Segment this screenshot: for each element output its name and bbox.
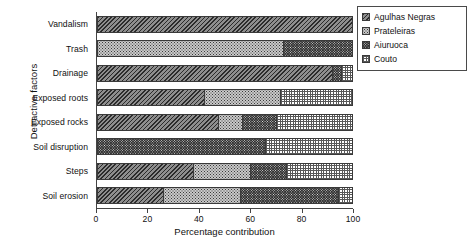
bar-segment-aiuruoca xyxy=(242,115,276,130)
x-tick-60 xyxy=(250,209,251,213)
x-tick-label-100: 100 xyxy=(346,214,360,224)
x-tick-label-40: 40 xyxy=(194,214,204,224)
bar-segment-agulhas-negras xyxy=(98,66,332,81)
category-label-exposed-rocks: Exposed rocks xyxy=(18,110,92,135)
stacked-bar xyxy=(97,65,353,82)
bar-row-vandalism xyxy=(97,12,353,37)
bar-row-soil-disruption xyxy=(97,135,353,160)
legend-item-agulhas-negras: Agulhas Negras xyxy=(362,10,463,24)
plot-area xyxy=(96,12,353,209)
bar-segment-agulhas-negras xyxy=(98,115,218,130)
bar-segment-agulhas-negras xyxy=(98,90,204,105)
x-tick-label-20: 20 xyxy=(143,214,153,224)
legend-item-couto: Couto xyxy=(362,52,463,66)
x-tick-40 xyxy=(199,209,200,213)
bar-row-steps xyxy=(97,159,353,184)
legend-label: Prateleiras xyxy=(374,26,415,36)
bar-segment-agulhas-negras xyxy=(98,17,352,32)
x-tick-0 xyxy=(96,209,97,213)
stacked-bar xyxy=(97,89,353,106)
legend: Agulhas NegrasPrateleirasAiuruocaCouto xyxy=(357,6,467,71)
category-label-steps: Steps xyxy=(18,159,92,184)
legend-label: Couto xyxy=(374,54,397,64)
legend-swatch-agulhas-negras xyxy=(362,13,370,21)
stacked-bar xyxy=(97,40,353,57)
x-tick-label-80: 80 xyxy=(297,214,307,224)
category-label-column: VandalismTrashDrainageExposed rootsExpos… xyxy=(18,12,92,208)
category-label-vandalism: Vandalism xyxy=(18,12,92,37)
bar-segment-aiuruoca xyxy=(283,41,352,56)
legend-item-aiuruoca: Aiuruoca xyxy=(362,38,463,52)
x-tick-80 xyxy=(302,209,303,213)
bar-row-exposed-rocks xyxy=(97,110,353,135)
bar-segment-agulhas-negras xyxy=(98,164,193,179)
bar-segment-couto xyxy=(341,66,352,81)
bar-segment-couto xyxy=(265,139,352,154)
bar-segment-prateleiras xyxy=(204,90,281,105)
stacked-bar xyxy=(97,114,353,131)
bar-segment-couto xyxy=(276,115,352,130)
stacked-bar xyxy=(97,138,353,155)
bar-segment-prateleiras xyxy=(98,41,283,56)
category-label-trash: Trash xyxy=(18,37,92,62)
stacked-bar xyxy=(97,163,353,180)
bar-segment-aiuruoca xyxy=(98,139,265,154)
bar-segment-couto xyxy=(286,164,352,179)
chart-figure: Detractive factors VandalismTrashDrainag… xyxy=(0,0,472,251)
x-tick-label-60: 60 xyxy=(245,214,255,224)
category-label-exposed-roots: Exposed roots xyxy=(18,86,92,111)
legend-swatch-aiuruoca xyxy=(362,41,370,49)
category-label-soil-disruption: Soil disruption xyxy=(18,135,92,160)
x-tick-label-0: 0 xyxy=(94,214,99,224)
x-axis-title: Percentage contribution xyxy=(96,226,353,237)
category-label-drainage: Drainage xyxy=(18,61,92,86)
stacked-bar xyxy=(97,16,353,33)
x-tick-20 xyxy=(147,209,148,213)
legend-item-prateleiras: Prateleiras xyxy=(362,24,463,38)
bar-row-soil-erosion xyxy=(97,184,353,209)
bar-segment-prateleiras xyxy=(193,164,249,179)
bar-segment-aiuruoca xyxy=(240,188,339,203)
stacked-bar xyxy=(97,187,353,204)
category-label-soil-erosion: Soil erosion xyxy=(18,184,92,209)
x-tick-100 xyxy=(353,209,354,213)
bar-group xyxy=(97,12,353,208)
bar-segment-couto xyxy=(338,188,352,203)
legend-swatch-prateleiras xyxy=(362,27,370,35)
bar-segment-agulhas-negras xyxy=(98,188,163,203)
bar-row-trash xyxy=(97,37,353,62)
bar-row-exposed-roots xyxy=(97,86,353,111)
legend-label: Aiuruoca xyxy=(374,40,408,50)
bar-segment-aiuruoca xyxy=(250,164,286,179)
bar-segment-prateleiras xyxy=(163,188,239,203)
bar-row-drainage xyxy=(97,61,353,86)
legend-label: Agulhas Negras xyxy=(374,12,435,22)
x-axis-tick-labels: 020406080100 xyxy=(96,214,353,226)
bar-segment-prateleiras xyxy=(218,115,242,130)
bar-segment-couto xyxy=(280,90,352,105)
bar-segment-aiuruoca xyxy=(332,66,341,81)
legend-swatch-couto xyxy=(362,55,370,63)
